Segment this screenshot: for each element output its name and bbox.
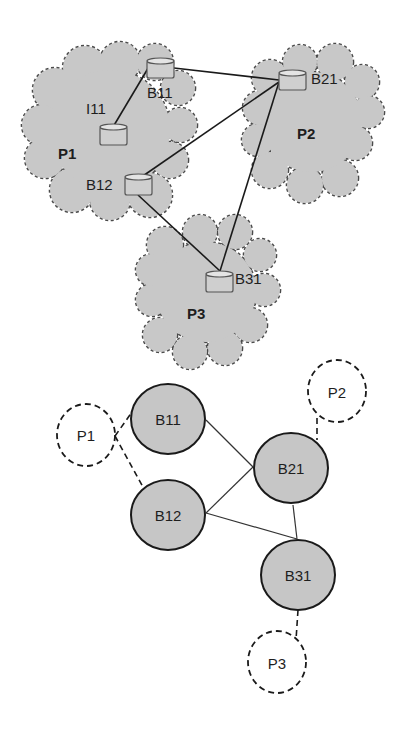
cloud-p2 [242, 44, 384, 203]
database-icon-b21 [279, 70, 306, 90]
link-b12-b21 [206, 467, 253, 513]
database-icon-b11 [147, 58, 174, 78]
node-b12: B12 [131, 480, 205, 550]
label-b11: B11 [147, 84, 173, 101]
node-label: B21 [278, 460, 305, 477]
label-p3: P3 [187, 305, 205, 322]
label-p2: P2 [297, 125, 315, 142]
label-p1: P1 [58, 145, 76, 162]
node-label: B12 [155, 507, 182, 524]
link-b21-b31 [293, 505, 297, 539]
node-label: B31 [285, 567, 312, 584]
node-b31: B31 [261, 540, 335, 610]
dashed-link-p1-b11 [115, 412, 132, 436]
link-b11-b21 [206, 420, 253, 467]
label-b31: B31 [235, 270, 262, 287]
label-i11: I11 [86, 100, 106, 117]
network-diagram: B11 I11 B12 B21 B31 P1 P2 P3 P1 P2 P3 B1… [0, 0, 405, 732]
node-b21: B21 [254, 433, 328, 503]
peer-node-label: P2 [328, 384, 346, 401]
peer-node-p3: P3 [248, 631, 306, 693]
peer-node-label: P1 [77, 427, 95, 444]
label-b21: B21 [311, 70, 338, 87]
dashed-link-p1-b12 [115, 436, 143, 487]
peer-node-p2: P2 [308, 360, 366, 422]
database-icon-i11 [100, 124, 127, 145]
label-b12: B12 [86, 176, 113, 193]
dashed-link-p3-b31 [296, 610, 298, 640]
node-label: B11 [155, 411, 181, 428]
link-b12-b31 [206, 513, 297, 539]
peer-node-label: P3 [268, 655, 286, 672]
peer-node-p1: P1 [57, 404, 115, 466]
node-b11: B11 [131, 384, 205, 454]
database-icon-b12 [125, 174, 152, 195]
database-icon-b31 [206, 271, 233, 292]
